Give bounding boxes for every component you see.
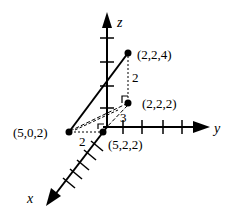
point-label-p4: (5,2,2) xyxy=(108,137,143,152)
length-label-diagonal: 3 xyxy=(120,110,127,125)
z-axis xyxy=(100,12,114,127)
point-label-p2: (2,2,2) xyxy=(142,96,177,111)
point-p2 xyxy=(125,100,132,107)
3d-coordinate-diagram: z y x xyxy=(0,0,229,217)
point-label-p3: (5,0,2) xyxy=(13,125,48,140)
length-label-horizontal: 2 xyxy=(79,134,86,149)
point-label-p1: (2,2,4) xyxy=(137,47,172,62)
point-p1 xyxy=(125,50,132,57)
y-axis-label: y xyxy=(212,121,221,136)
point-p4 xyxy=(100,129,107,136)
x-axis-label: x xyxy=(26,191,34,206)
point-p3 xyxy=(66,129,73,136)
z-axis-label: z xyxy=(116,15,123,30)
x-axis xyxy=(46,127,107,206)
length-label-vertical: 2 xyxy=(132,70,139,85)
